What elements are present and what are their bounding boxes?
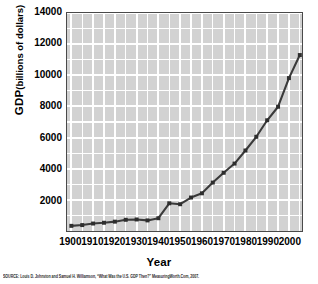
data-point-marker [243,149,247,153]
y-axis-tick-label: 8000 [16,101,62,111]
data-point-marker [276,105,280,109]
data-point-marker [113,220,117,224]
plot-area [66,12,303,232]
gdp-line-chart: GDP(billions of dollars) 140001200010000… [0,0,318,284]
data-line [71,55,299,226]
source-citation: SOURCE: Louis D. Johnston and Samuel H. … [3,274,315,280]
data-point-marker [200,191,204,195]
data-point-marker [189,196,193,200]
data-point-marker [167,201,171,205]
data-point-marker [254,135,258,139]
data-point-marker [298,53,302,57]
x-axis-tick-labels: 1900191019201930194019501960197019801990… [0,236,318,250]
y-axis-tick-label: 10000 [16,70,62,80]
data-point-marker [211,181,215,185]
data-point-marker [69,224,73,228]
data-point-marker [156,216,160,220]
data-point-marker [102,221,106,225]
x-axis-title: Year [0,256,318,268]
y-axis-tick-label: 2000 [16,196,62,206]
data-point-marker [178,202,182,206]
y-axis-tick-label: 12000 [16,38,62,48]
y-axis-tick-label: 6000 [16,133,62,143]
y-axis-tick-label: 4000 [16,164,62,174]
data-point-marker [222,171,226,175]
data-point-marker [265,118,269,122]
data-point-marker [91,222,95,226]
data-point-marker [135,217,139,221]
data-point-marker [80,223,84,227]
data-point-marker [124,218,128,222]
data-point-marker [233,162,237,166]
y-axis-tick-label: 14000 [16,7,62,17]
data-point-marker [146,218,150,222]
data-point-marker [287,76,291,80]
x-axis-tick-label: 2000 [270,236,310,248]
gdp-series-line [67,13,302,231]
